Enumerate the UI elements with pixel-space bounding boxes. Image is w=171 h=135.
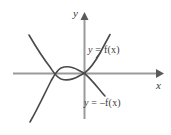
curve-label-negf-equals: =: [89, 97, 100, 108]
curve-label-negative-f-of-x: y = –f(x): [84, 98, 121, 108]
y-axis-label: y: [73, 8, 78, 19]
graph-canvas: [0, 0, 171, 135]
curve-label-negf-expression: –f(x): [100, 97, 121, 108]
curve-negative-f-of-x: [30, 67, 105, 122]
y-axis-arrow-icon: [81, 12, 89, 20]
curve-label-f-equals: =: [93, 44, 104, 55]
curve-label-f-expression: f(x): [104, 44, 120, 55]
function-graph-figure: y x y = f(x) y = –f(x): [0, 0, 171, 135]
curve-label-f-of-x: y = f(x): [88, 45, 120, 55]
x-axis-label: x: [156, 80, 161, 91]
x-axis-arrow-icon: [156, 69, 164, 78]
